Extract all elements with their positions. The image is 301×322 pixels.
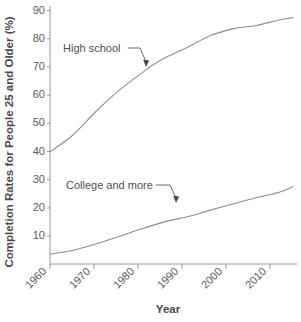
y-tick-label: 20 [33,201,45,213]
y-tick-label: 30 [33,173,45,185]
y-axis-title: Completion Rates for People 25 and Older… [3,16,15,267]
series-line-high-school [50,17,293,151]
x-tick-label: 1970 [67,265,93,291]
x-tick-label: 1990 [155,265,181,291]
annotation-arrow-head [173,196,179,203]
y-tick-label: 80 [33,32,45,44]
y-tick-label: 10 [33,229,45,241]
annotation-high-school: High school [63,42,149,67]
y-tick-label: 50 [33,116,45,128]
annotation-leader-line [156,185,176,198]
annotation-label-college-and-more: College and more [66,179,153,191]
y-tick-label: 70 [33,60,45,72]
x-tick-label: 1960 [23,265,49,291]
chart-container: Completion Rates for People 25 and Older… [0,0,301,322]
annotation-arrow-head [143,60,149,67]
y-axis-ticks: 90 80 70 60 50 40 30 20 10 [33,4,50,241]
x-axis-title: Year [156,303,181,315]
x-axis-tick-labels: 1960 1970 1980 1990 2000 2010 [23,265,269,291]
x-tick-label: 2010 [243,265,269,291]
line-chart: Completion Rates for People 25 and Older… [0,0,301,322]
annotation-college-and-more: College and more [66,179,179,203]
y-tick-label: 60 [33,88,45,100]
y-tick-label: 90 [33,4,45,16]
y-tick-label: 40 [33,145,45,157]
x-tick-label: 1980 [111,265,137,291]
series-line-college-and-more [50,187,293,255]
x-tick-label: 2000 [199,265,225,291]
annotation-label-high-school: High school [63,42,120,54]
